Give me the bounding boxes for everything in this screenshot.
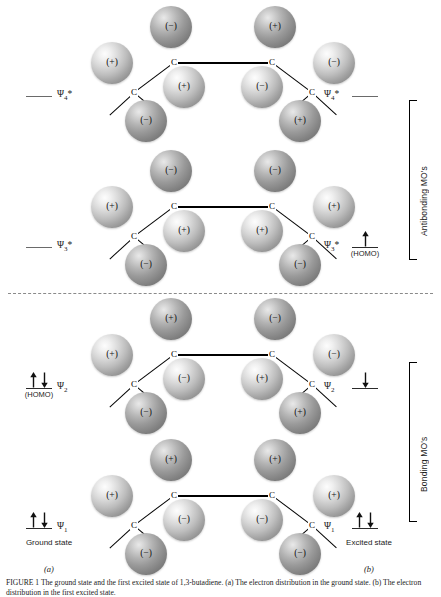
orbital-lobe-c2-top: (−) [150, 6, 192, 48]
lobe-sign: (+) [106, 350, 118, 360]
carbon-atom-c1: C [130, 380, 138, 389]
orbital-lobe-c2-top: (+) [150, 298, 192, 340]
carbon-atom-c3: C [268, 350, 276, 359]
orbital-lobe-c4-bottom: (−) [279, 533, 321, 575]
energy-level-line-Ψ1 [26, 528, 52, 529]
lobe-sign: (+) [165, 314, 177, 324]
energy-level-line-Ψ3 [26, 247, 52, 248]
lobe-sign: (−) [140, 549, 152, 559]
orbital-diagram-psi-1: (+)(−)(+)(−)(+)(−)(+)(−)CCCC [108, 441, 338, 579]
energy-level-line-Ψ1 [352, 528, 378, 529]
orbital-lobe-c2-bottom: (+) [163, 66, 205, 108]
orbital-diagram-psi-4-star: (+)(−)(−)(+)(+)(−)(−)(+)CCCC [108, 8, 338, 146]
orbital-lobe-c4-top: (−) [313, 42, 355, 84]
lobe-sign: (+) [256, 374, 268, 384]
orbital-lobe-c2-bottom: (+) [163, 210, 205, 252]
lobe-sign: (−) [178, 515, 190, 525]
orbital-lobe-c1-top: (+) [91, 186, 133, 228]
antibonding-brace-label: Antibonding MO's [419, 124, 429, 236]
lobe-sign: (−) [269, 314, 281, 324]
carbon-atom-c1: C [130, 232, 138, 241]
carbon-atom-c2: C [170, 350, 178, 359]
carbon-atom-c3: C [268, 202, 276, 211]
orbital-lobe-c1-bottom: (−) [125, 392, 167, 434]
carbon-atom-c4: C [308, 521, 316, 530]
lobe-sign: (+) [178, 226, 190, 236]
energy-level-line-Ψ2 [352, 388, 378, 389]
orbital-diagram-psi-2: (+)(−)(+)(−)(−)(+)(−)(+)CCCC [108, 300, 338, 438]
orbital-lobe-c1-top: (+) [91, 475, 133, 517]
carbon-atom-c2: C [170, 58, 178, 67]
ground-state-label: Ground state [18, 538, 80, 548]
lobe-sign: (−) [165, 166, 177, 176]
lobe-sign: (−) [269, 166, 281, 176]
panel-letter-b: (b) [338, 564, 400, 574]
electron-arrow-down [41, 512, 48, 528]
lobe-sign: (+) [106, 491, 118, 501]
carbon-atom-c4: C [308, 88, 316, 97]
energy-level-line-Ψ4 [352, 96, 378, 97]
bond-line [174, 206, 272, 207]
psi-label-1: Ψ1 [324, 522, 335, 534]
bond-line [174, 354, 272, 355]
electron-arrow-up [30, 512, 37, 528]
orbital-lobe-c3-bottom: (+) [241, 210, 283, 252]
lobe-sign: (−) [256, 82, 268, 92]
lobe-sign: (−) [140, 408, 152, 418]
electron-arrow-down [41, 372, 48, 388]
orbital-lobe-c4-bottom: (+) [279, 392, 321, 434]
lobe-sign: (+) [165, 455, 177, 465]
orbital-lobe-c4-top: (+) [313, 475, 355, 517]
orbital-lobe-c3-top: (−) [254, 298, 296, 340]
orbital-lobe-c3-bottom: (+) [241, 358, 283, 400]
panel-letter-a: (a) [18, 564, 80, 574]
orbital-lobe-c3-bottom: (−) [241, 66, 283, 108]
orbital-lobe-c2-bottom: (−) [163, 358, 205, 400]
bonding-brace [409, 362, 417, 522]
electron-arrow-up [30, 372, 37, 388]
homo-note: (HOMO) [338, 250, 392, 259]
carbon-atom-c1: C [130, 521, 138, 530]
homo-note: (HOMO) [8, 391, 70, 400]
psi-label-3-star: Ψ3* [57, 241, 72, 253]
orbital-lobe-c3-top: (+) [254, 6, 296, 48]
orbital-lobe-c3-top: (+) [254, 439, 296, 481]
lobe-sign: (+) [178, 82, 190, 92]
bond-line [174, 495, 272, 496]
electron-arrow-up [362, 231, 369, 247]
figure-caption: FIGURE 1 The ground state and the first … [6, 578, 436, 597]
orbital-lobe-c3-top: (−) [254, 150, 296, 192]
orbital-diagram-psi-3-star: (+)(−)(−)(+)(−)(+)(+)(−)CCCC [108, 152, 338, 290]
electron-arrow-down [362, 372, 369, 388]
lobe-sign: (−) [165, 22, 177, 32]
orbital-lobe-c1-bottom: (−) [125, 244, 167, 286]
carbon-atom-c4: C [308, 232, 316, 241]
lobe-sign: (−) [140, 260, 152, 270]
orbital-lobe-c4-top: (+) [313, 186, 355, 228]
orbital-lobe-c1-bottom: (−) [125, 533, 167, 575]
psi-label-4-star: Ψ4* [57, 90, 72, 102]
lobe-sign: (+) [328, 202, 340, 212]
orbital-lobe-c1-top: (+) [91, 334, 133, 376]
lobe-sign: (−) [140, 116, 152, 126]
carbon-atom-c3: C [268, 491, 276, 500]
lobe-sign: (+) [106, 202, 118, 212]
carbon-atom-c4: C [308, 380, 316, 389]
bond-line [174, 62, 272, 63]
lobe-sign: (−) [256, 515, 268, 525]
excited-state-label: Excited state [338, 538, 400, 548]
orbital-lobe-c4-top: (−) [313, 334, 355, 376]
orbital-lobe-c2-top: (−) [150, 150, 192, 192]
lobe-sign: (+) [269, 455, 281, 465]
lobe-sign: (−) [328, 350, 340, 360]
orbital-lobe-c2-bottom: (−) [163, 499, 205, 541]
carbon-atom-c3: C [268, 58, 276, 67]
lobe-sign: (−) [178, 374, 190, 384]
orbital-lobe-c4-bottom: (+) [279, 100, 321, 142]
antibonding-brace [409, 100, 417, 260]
carbon-atom-c2: C [170, 491, 178, 500]
lobe-sign: (+) [269, 22, 281, 32]
lobe-sign: (+) [294, 408, 306, 418]
orbital-lobe-c1-top: (+) [91, 42, 133, 84]
